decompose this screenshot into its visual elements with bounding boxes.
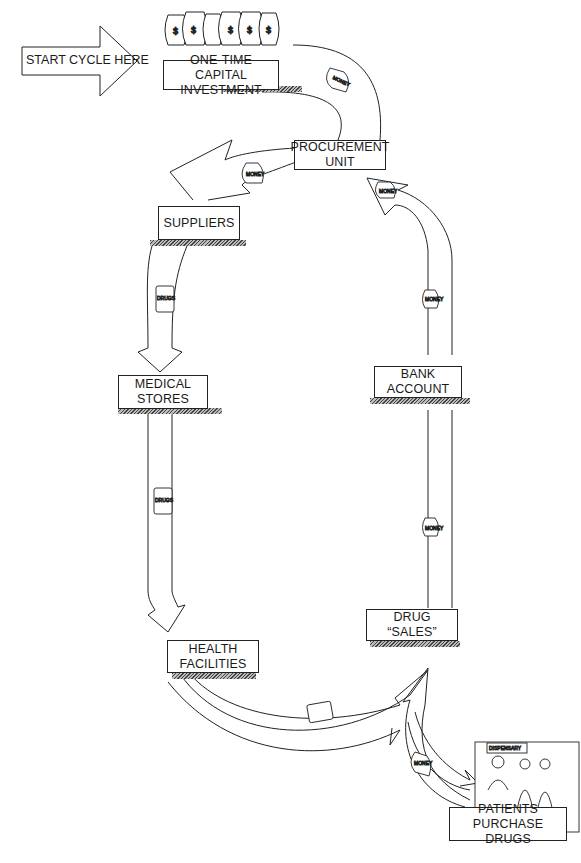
money-bag-icon: MONEY (411, 752, 433, 776)
flow-capital-to-procurement (262, 45, 381, 140)
flow-drug-sales-to-patients (408, 712, 478, 790)
node-text: UNIT (325, 155, 355, 170)
svg-text:$: $ (247, 25, 252, 35)
node-text: MEDICAL (135, 377, 191, 392)
svg-text:MONEY: MONEY (425, 525, 444, 531)
drug-jar-icon: DRUGS (154, 488, 174, 514)
node-text: HEALTH (189, 642, 238, 657)
node-text: FACILITIES (180, 657, 247, 672)
node-text: ACCOUNT (387, 382, 450, 397)
node-text: STORES (137, 392, 189, 407)
money-bag-icon: MONEY (326, 68, 351, 92)
node-text: SUPPLIERS (163, 216, 234, 231)
node-capital-investment: ONE-TIME CAPITAL INVESTMENT (163, 60, 279, 90)
node-patients-purchase-drugs: PATIENTS PURCHASE DRUGS (449, 807, 567, 841)
money-bag-icon: MONEY (423, 518, 445, 536)
money-bag-icon: MONEY (423, 290, 445, 308)
node-text: ONE-TIME CAPITAL (164, 53, 278, 83)
node-suppliers: SUPPLIERS (158, 206, 240, 240)
svg-text:MONEY: MONEY (246, 171, 265, 177)
flow-patients-to-drug-sales (403, 668, 470, 807)
node-text: BANK (401, 367, 435, 382)
node-bank-account: BANK ACCOUNT (374, 366, 462, 398)
node-text: PATIENTS PURCHASE (450, 802, 566, 832)
flow-bank-to-procurement (367, 178, 452, 355)
money-bags-icon: $ $ $ $ $ (165, 12, 279, 45)
node-procurement-unit: PROCUREMENT UNIT (294, 140, 386, 170)
start-cycle-label: START CYCLE HERE (26, 53, 149, 67)
flow-health-facilities-to-drug-sales (180, 670, 428, 730)
svg-text:MONEY: MONEY (414, 760, 433, 766)
flow-medical-stores-to-health-facilities (148, 410, 185, 632)
svg-text:$: $ (173, 26, 178, 36)
node-text: INVESTMENT (180, 83, 262, 98)
svg-text:DRUGS: DRUGS (157, 295, 176, 301)
node-text: DRUG “SALES” (367, 610, 457, 640)
node-text: PROCUREMENT (290, 140, 389, 155)
money-bag-icon: MONEY (242, 163, 265, 183)
drug-jar-icon (307, 701, 334, 723)
svg-text:$: $ (266, 25, 271, 35)
money-bag-icon: MONEY (375, 182, 398, 198)
cycle-diagram: $ $ $ $ $ MONEY MONEY MONEY MONEY MONEY … (0, 0, 581, 863)
svg-text:$: $ (228, 25, 233, 35)
drug-jar-icon: DRUGS (156, 286, 176, 312)
node-health-facilities: HEALTH FACILITIES (167, 640, 259, 673)
svg-text:DISPENSARY: DISPENSARY (489, 745, 522, 751)
node-text: DRUGS (485, 832, 531, 847)
flow-drug-sales-to-bank (428, 410, 452, 608)
svg-text:$: $ (191, 25, 196, 35)
svg-text:MONEY: MONEY (425, 296, 444, 302)
svg-text:DRUGS: DRUGS (155, 497, 174, 503)
node-medical-stores: MEDICAL STORES (118, 375, 208, 409)
svg-text:MONEY: MONEY (379, 188, 398, 194)
flow-procurement-to-suppliers (170, 140, 296, 200)
node-drug-sales: DRUG “SALES” (366, 609, 458, 641)
